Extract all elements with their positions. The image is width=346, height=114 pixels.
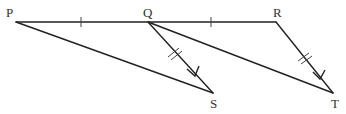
label-q: Q xyxy=(143,5,153,20)
geometry-diagram: P Q R S T xyxy=(0,0,346,114)
label-t: T xyxy=(331,96,339,111)
label-s: S xyxy=(210,96,217,111)
label-p: P xyxy=(6,5,13,20)
label-r: R xyxy=(273,5,282,20)
double-tick-qs xyxy=(168,48,182,60)
segment-qs xyxy=(148,22,213,93)
segment-ps xyxy=(16,22,213,93)
